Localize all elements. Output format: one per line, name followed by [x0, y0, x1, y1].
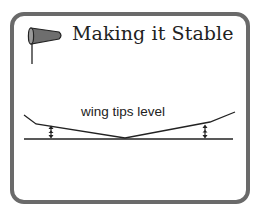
- diagram-label: wing tips level: [81, 104, 165, 119]
- windsock-icon: [28, 28, 61, 64]
- left-height-arrow: [49, 126, 54, 139]
- right-height-arrow: [203, 125, 208, 139]
- card-title: Making it Stable: [72, 22, 234, 44]
